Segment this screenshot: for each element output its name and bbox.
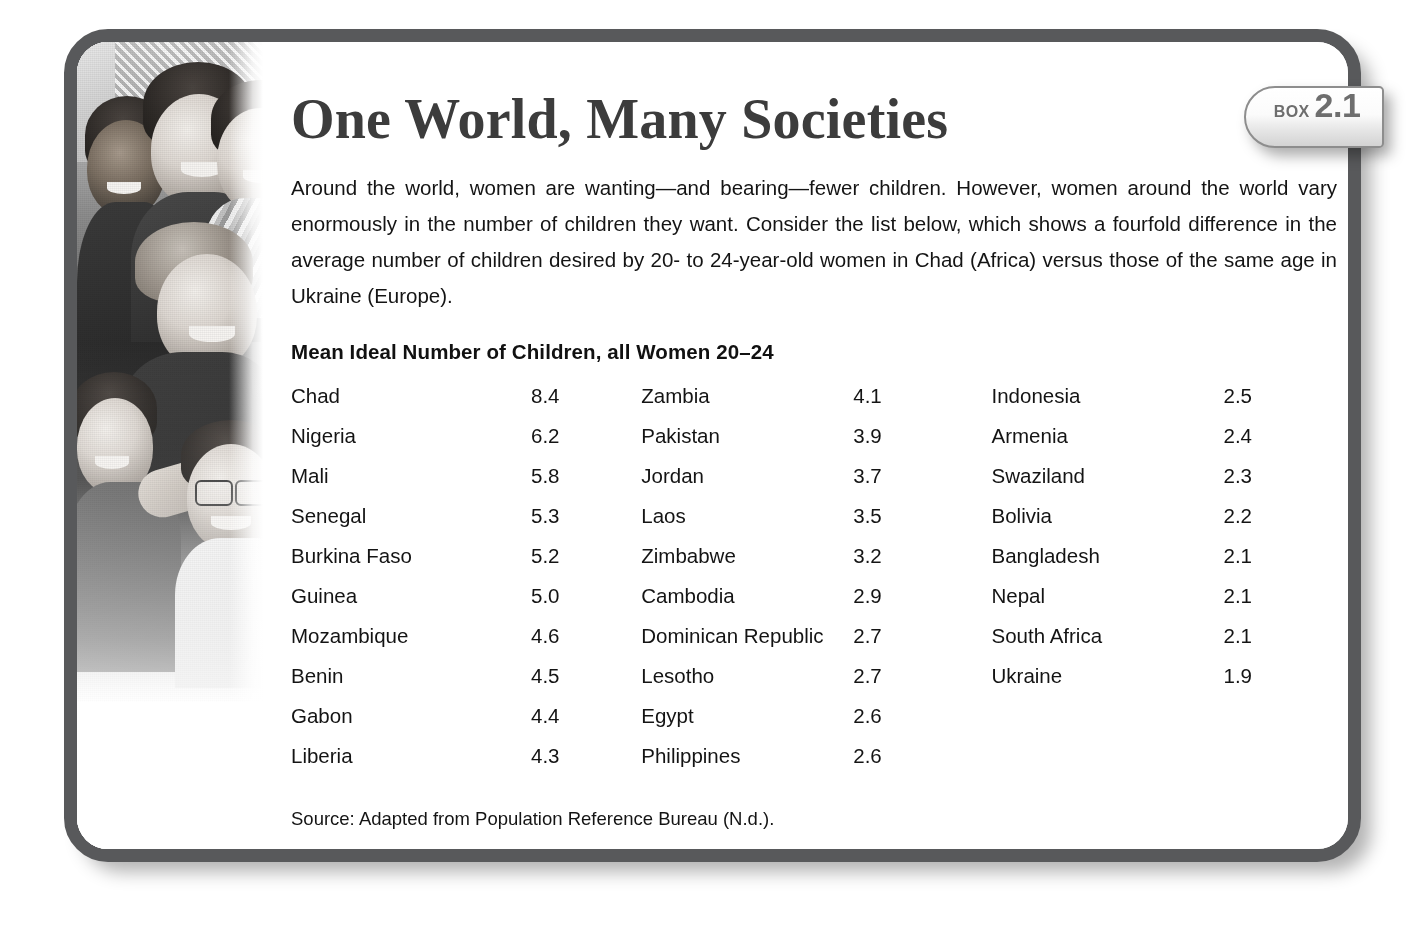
country-label: Senegal — [291, 504, 531, 528]
country-value: 3.5 — [853, 504, 882, 528]
country-value: 5.2 — [531, 544, 560, 568]
country-label: Dominican Republic — [641, 624, 853, 648]
country-value: 4.4 — [531, 704, 560, 728]
country-label: Mali — [291, 464, 531, 488]
photo-bottom-fade — [77, 342, 263, 849]
country-value: 2.7 — [853, 664, 882, 688]
table-row: Guinea 5.0 — [291, 584, 641, 624]
country-label: Mozambique — [291, 624, 531, 648]
table-row: Chad 8.4 — [291, 384, 641, 424]
country-value: 5.3 — [531, 504, 560, 528]
country-label: Lesotho — [641, 664, 853, 688]
table-row: Jordan 3.7 — [641, 464, 991, 504]
table-row: Mali 5.8 — [291, 464, 641, 504]
country-value: 5.8 — [531, 464, 560, 488]
country-value: 2.4 — [1224, 424, 1253, 448]
table-row: Nigeria 6.2 — [291, 424, 641, 464]
box-content: One World, Many Societies Around the wor… — [286, 42, 1348, 849]
box-number-tab-content: BOX 2.1 — [1244, 86, 1384, 148]
country-label: Indonesia — [992, 384, 1224, 408]
box-title: One World, Many Societies — [291, 90, 1318, 149]
country-label: Philippines — [641, 744, 853, 768]
country-value: 8.4 — [531, 384, 560, 408]
data-columns: Chad 8.4 Nigeria 6.2 Mali 5.8 Senegal 5.… — [291, 384, 1318, 784]
table-row: Cambodia 2.9 — [641, 584, 991, 624]
country-value: 3.7 — [853, 464, 882, 488]
country-value: 2.1 — [1224, 544, 1253, 568]
country-value: 2.9 — [853, 584, 882, 608]
country-label: Ukraine — [992, 664, 1224, 688]
box-number-tab: BOX 2.1 — [1244, 86, 1384, 148]
country-label: Armenia — [992, 424, 1224, 448]
country-value: 1.9 — [1224, 664, 1253, 688]
list-heading: Mean Ideal Number of Children, all Women… — [291, 340, 1318, 364]
table-row: Nepal 2.1 — [992, 584, 1319, 624]
country-value: 2.7 — [853, 624, 882, 648]
table-row: Ukraine 1.9 — [992, 664, 1319, 704]
table-row: Bangladesh 2.1 — [992, 544, 1319, 584]
country-label: Liberia — [291, 744, 531, 768]
table-row: Zimbabwe 3.2 — [641, 544, 991, 584]
group-photo — [77, 42, 263, 849]
table-row: Zambia 4.1 — [641, 384, 991, 424]
country-label: Egypt — [641, 704, 853, 728]
box-tab-label: BOX — [1274, 103, 1310, 121]
table-row: South Africa 2.1 — [992, 624, 1319, 664]
country-value: 3.9 — [853, 424, 882, 448]
country-value: 2.6 — [853, 744, 882, 768]
country-label: Bangladesh — [992, 544, 1224, 568]
country-label: Nepal — [992, 584, 1224, 608]
table-row: Dominican Republic 2.7 — [641, 624, 991, 664]
table-row: Egypt 2.6 — [641, 704, 991, 744]
country-value: 4.5 — [531, 664, 560, 688]
country-label: South Africa — [992, 624, 1224, 648]
table-row: Gabon 4.4 — [291, 704, 641, 744]
country-label: Burkina Faso — [291, 544, 531, 568]
table-row: Lesotho 2.7 — [641, 664, 991, 704]
table-row: Swaziland 2.3 — [992, 464, 1319, 504]
country-label: Laos — [641, 504, 853, 528]
country-label: Benin — [291, 664, 531, 688]
country-value: 2.5 — [1224, 384, 1253, 408]
source-line: Source: Adapted from Population Referenc… — [291, 808, 1318, 830]
country-label: Zambia — [641, 384, 853, 408]
box-card: One World, Many Societies Around the wor… — [64, 29, 1361, 862]
table-row: Benin 4.5 — [291, 664, 641, 704]
table-row: Burkina Faso 5.2 — [291, 544, 641, 584]
country-label: Pakistan — [641, 424, 853, 448]
country-label: Gabon — [291, 704, 531, 728]
country-value: 4.1 — [853, 384, 882, 408]
country-value: 2.1 — [1224, 584, 1253, 608]
country-value: 5.0 — [531, 584, 560, 608]
country-value: 2.6 — [853, 704, 882, 728]
country-label: Nigeria — [291, 424, 531, 448]
country-value: 2.2 — [1224, 504, 1253, 528]
table-row: Pakistan 3.9 — [641, 424, 991, 464]
table-row: Senegal 5.3 — [291, 504, 641, 544]
country-label: Jordan — [641, 464, 853, 488]
table-row: Armenia 2.4 — [992, 424, 1319, 464]
table-row: Philippines 2.6 — [641, 744, 991, 784]
country-label: Swaziland — [992, 464, 1224, 488]
country-label: Chad — [291, 384, 531, 408]
country-value: 6.2 — [531, 424, 560, 448]
table-row: Indonesia 2.5 — [992, 384, 1319, 424]
table-row: Bolivia 2.2 — [992, 504, 1319, 544]
country-label: Bolivia — [992, 504, 1224, 528]
country-label: Zimbabwe — [641, 544, 853, 568]
data-column-2: Zambia 4.1 Pakistan 3.9 Jordan 3.7 Laos … — [641, 384, 991, 784]
table-row: Liberia 4.3 — [291, 744, 641, 784]
country-value: 2.3 — [1224, 464, 1253, 488]
data-column-1: Chad 8.4 Nigeria 6.2 Mali 5.8 Senegal 5.… — [291, 384, 641, 784]
box-tab-number: 2.1 — [1315, 86, 1361, 125]
country-value: 3.2 — [853, 544, 882, 568]
table-row: Mozambique 4.6 — [291, 624, 641, 664]
country-label: Cambodia — [641, 584, 853, 608]
box-card-inner: One World, Many Societies Around the wor… — [77, 42, 1348, 849]
country-value: 2.1 — [1224, 624, 1253, 648]
data-column-3: Indonesia 2.5 Armenia 2.4 Swaziland 2.3 … — [992, 384, 1319, 784]
country-value: 4.3 — [531, 744, 560, 768]
country-label: Guinea — [291, 584, 531, 608]
table-row: Laos 3.5 — [641, 504, 991, 544]
intro-paragraph: Around the world, women are wanting—and … — [291, 170, 1337, 314]
